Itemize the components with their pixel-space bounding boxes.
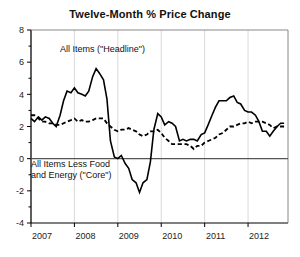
annotation-core-line1: All Items Less Food	[31, 159, 110, 169]
y-axis-tick-label: 4	[19, 90, 24, 100]
chart-container: Twelve-Month % Price Change 86420-2-4 20…	[0, 0, 300, 257]
y-axis-tick-label: -4	[16, 218, 24, 228]
y-axis-tick-label: 0	[19, 154, 24, 164]
x-axis-ticks-group: 200720082009201020112012	[31, 223, 269, 241]
x-axis-tick-label: 2007	[32, 231, 52, 241]
x-axis-tick-label: 2012	[249, 231, 269, 241]
annotation-headline: All Items ("Headline")	[60, 44, 145, 54]
x-axis-tick-label: 2008	[75, 231, 95, 241]
series-line-core	[31, 115, 284, 149]
y-axis-ticks-group: 86420-2-4	[16, 25, 31, 228]
y-axis-tick-label: 2	[19, 122, 24, 132]
x-axis-tick-label: 2011	[206, 231, 225, 241]
y-axis-tick-label: 6	[19, 57, 24, 67]
annotation-core-line2: and Energy ("Core")	[31, 170, 111, 180]
x-axis-tick-label: 2009	[119, 231, 139, 241]
y-axis-tick-label: -2	[16, 186, 24, 196]
price-change-line-chart: 86420-2-4 200720082009201020112012 All I…	[0, 0, 300, 257]
x-axis-tick-label: 2010	[162, 231, 182, 241]
y-axis-tick-label: 8	[19, 25, 24, 35]
plot-frame	[31, 30, 288, 223]
